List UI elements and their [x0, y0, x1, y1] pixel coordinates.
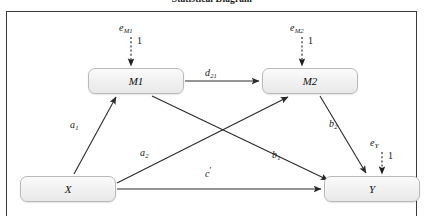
disturbance-loading-em2: 1 — [308, 36, 313, 46]
diagram-page: Statistical Diagram M1 M2 X Y — [0, 0, 424, 216]
node-m2-label: M2 — [303, 75, 318, 87]
page-title: Statistical Diagram — [0, 0, 424, 4]
node-m1-label: M1 — [129, 75, 144, 87]
disturbance-loading-em1: 1 — [137, 36, 142, 46]
path-label-c-prime: c′ — [205, 166, 211, 179]
node-x-label: X — [65, 183, 72, 195]
path-c-prime-mark: ′ — [209, 165, 211, 175]
path-b1-subscript: 1 — [277, 154, 280, 161]
disturbance-label-em1: eM1 — [119, 23, 132, 33]
disturbance-ey-symbol: e — [370, 137, 374, 148]
disturbance-label-ey: eY — [370, 138, 378, 148]
disturbance-em2-symbol: e — [290, 22, 294, 33]
node-m2[interactable]: M2 — [262, 68, 358, 94]
disturbance-ey-subscript: Y — [375, 142, 379, 149]
path-b2-subscript: 2 — [334, 123, 337, 130]
node-y-label: Y — [369, 183, 375, 195]
node-y[interactable]: Y — [324, 176, 420, 202]
path-d21-subscript: 21 — [210, 72, 217, 79]
disturbance-loading-ey: 1 — [388, 151, 393, 161]
path-a1-subscript: 1 — [75, 124, 78, 131]
path-label-a1: a1 — [70, 120, 78, 130]
path-label-a2: a2 — [140, 148, 148, 158]
path-label-b1: b1 — [272, 150, 280, 160]
disturbance-em1-symbol: e — [119, 22, 123, 33]
disturbance-em2-subscript: M2 — [295, 27, 304, 34]
node-m1[interactable]: M1 — [88, 68, 184, 94]
disturbance-label-em2: eM2 — [290, 23, 303, 33]
path-label-d21: d21 — [205, 68, 217, 78]
path-label-b2: b2 — [329, 119, 337, 129]
node-x[interactable]: X — [20, 176, 116, 202]
disturbance-em1-subscript: M1 — [124, 27, 133, 34]
path-a2-subscript: 2 — [145, 152, 148, 159]
